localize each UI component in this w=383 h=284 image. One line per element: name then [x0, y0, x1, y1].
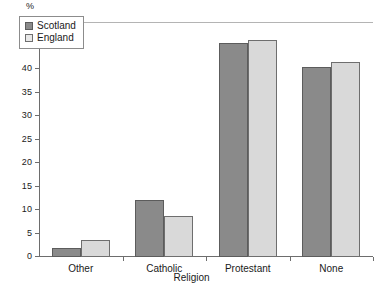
y-tick-label: 10	[22, 204, 32, 215]
bar	[331, 62, 360, 257]
bar	[164, 216, 193, 257]
y-tick-label: 5	[27, 228, 32, 239]
y-tick-label: 15	[22, 181, 32, 192]
y-tick-mark	[35, 162, 39, 163]
y-tick-label: 0	[27, 251, 32, 262]
y-tick-label: 30	[22, 110, 32, 121]
legend-swatch-icon-england	[25, 34, 33, 42]
y-tick-mark	[35, 256, 39, 257]
y-tick-label: 25	[22, 134, 32, 145]
y-tick-label: 40	[22, 63, 32, 74]
y-tick-mark	[35, 115, 39, 116]
y-tick-mark	[35, 92, 39, 93]
bar	[52, 248, 81, 257]
y-tick-label: 20	[22, 157, 32, 168]
x-axis-title: Religion	[0, 272, 383, 284]
legend-item-scotland: Scotland	[25, 20, 76, 32]
bar-chart: % 05101520253035404550 OtherCatholicProt…	[0, 0, 383, 284]
y-tick-mark	[35, 139, 39, 140]
y-axis-unit-label: %	[26, 1, 34, 11]
y-tick-mark	[35, 68, 39, 69]
bar	[81, 240, 110, 257]
x-tick-mark	[373, 257, 374, 261]
y-tick-label: 35	[22, 87, 32, 98]
legend-item-england: England	[25, 32, 76, 44]
legend-swatch-icon-scotland	[25, 22, 33, 30]
x-tick-mark	[206, 257, 207, 261]
y-tick-mark	[35, 233, 39, 234]
y-tick-mark	[35, 186, 39, 187]
bar	[302, 67, 331, 257]
bar	[135, 200, 164, 257]
x-tick-mark	[123, 257, 124, 261]
legend-label-scotland: Scotland	[37, 20, 76, 32]
x-tick-mark	[290, 257, 291, 261]
chart-legend: Scotland England	[19, 16, 84, 49]
bar	[219, 43, 248, 257]
bar	[248, 40, 277, 257]
legend-label-england: England	[37, 32, 74, 44]
y-tick-mark	[35, 209, 39, 210]
